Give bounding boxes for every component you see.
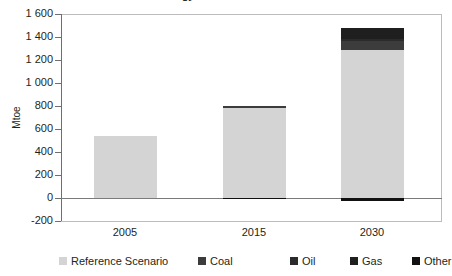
bar-segment <box>341 41 404 50</box>
legend-swatch-icon <box>59 257 67 265</box>
legend-item[interactable]: Reference Scenario <box>59 255 168 267</box>
legend-item[interactable]: Oil <box>290 255 315 267</box>
legend-swatch-icon <box>290 257 298 265</box>
y-tick-label: -200 <box>1 215 53 226</box>
y-axis-labels: 1 6001 4001 2001 0008006004002000-200 <box>0 0 53 276</box>
bar-group <box>341 14 404 222</box>
y-tick-label: 200 <box>1 169 53 180</box>
legend-label: Reference Scenario <box>71 255 168 267</box>
bar-segment <box>223 106 286 108</box>
legend-item[interactable]: Other <box>412 255 452 267</box>
legend-item[interactable]: Gas <box>350 255 382 267</box>
legend-item[interactable]: Coal <box>198 255 233 267</box>
bar-segment <box>341 50 404 198</box>
legend-label: Coal <box>210 255 233 267</box>
y-tick-mark <box>55 198 61 199</box>
y-tick-mark <box>55 152 61 153</box>
y-tick-mark <box>55 83 61 84</box>
y-tick-label: 1 400 <box>1 31 53 42</box>
legend-swatch-icon <box>412 257 420 265</box>
y-tick-label: 0 <box>1 192 53 203</box>
y-tick-label: 1 000 <box>1 77 53 88</box>
bars-layer <box>61 14 442 222</box>
bar-segment <box>341 28 404 39</box>
y-tick-mark <box>55 106 61 107</box>
x-tick-label: 2015 <box>214 226 294 238</box>
bar-group <box>223 14 286 222</box>
x-tick-label: 2005 <box>85 226 165 238</box>
legend-label: Gas <box>362 255 382 267</box>
legend-label: Oil <box>302 255 315 267</box>
y-tick-label: 400 <box>1 146 53 157</box>
y-tick-mark <box>55 14 61 15</box>
y-tick-mark <box>55 175 61 176</box>
bar-segment <box>341 39 404 41</box>
y-tick-label: 600 <box>1 123 53 134</box>
bar-segment <box>223 108 286 198</box>
y-tick-mark <box>55 37 61 38</box>
bar-group <box>94 14 157 222</box>
y-tick-label: 1 200 <box>1 54 53 65</box>
legend-label: Other <box>424 255 452 267</box>
bar-segment-negative <box>341 198 404 201</box>
chart-title-cropped: Energy Demand Variants <box>0 0 444 9</box>
x-tick-label: 2030 <box>332 226 412 238</box>
chart-title: Energy Demand Variants <box>0 0 444 1</box>
y-tick-label: 1 600 <box>1 8 53 19</box>
y-tick-mark <box>55 221 61 222</box>
legend-swatch-icon <box>198 257 206 265</box>
y-tick-label: 800 <box>1 100 53 111</box>
chart-legend: Reference ScenarioCoalOilGasOther <box>0 255 444 273</box>
legend-swatch-icon <box>350 257 358 265</box>
y-tick-mark <box>55 60 61 61</box>
bar-segment-negative <box>223 198 286 199</box>
bar-segment <box>94 136 157 198</box>
y-tick-mark <box>55 129 61 130</box>
